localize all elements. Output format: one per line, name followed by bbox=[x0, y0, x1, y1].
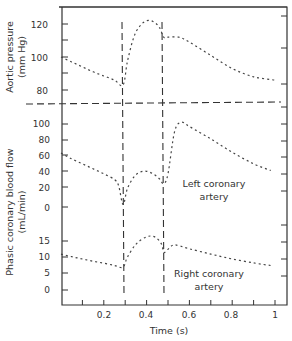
flow-y-title-line2: (mL/min) bbox=[16, 190, 27, 233]
right-tick-15: 15 bbox=[39, 236, 50, 246]
flow-y-title-line1: Phasic coronary blood flow bbox=[4, 148, 15, 275]
x-tick-0.8: 0.8 bbox=[224, 310, 239, 320]
right-tick-0: 0 bbox=[44, 285, 50, 295]
right-coronary-annotation-line1: Right coronary bbox=[174, 268, 244, 279]
x-tick-1: 1 bbox=[272, 310, 278, 320]
panel-divider bbox=[26, 102, 281, 104]
y-axis-ticks-right bbox=[281, 16, 287, 276]
left-coronary-annotation-line1: Left coronary bbox=[183, 178, 246, 189]
right-coronary-curve bbox=[61, 236, 271, 268]
aortic-tick-80: 80 bbox=[37, 86, 49, 96]
x-tick-0.4: 0.4 bbox=[139, 310, 154, 320]
right-tick-10: 10 bbox=[39, 252, 51, 262]
x-tick-0.2: 0.2 bbox=[97, 310, 111, 320]
right-coronary-annotation-line2: artery bbox=[195, 281, 224, 292]
aortic-tick-120: 120 bbox=[31, 20, 48, 30]
left-tick-20: 20 bbox=[39, 183, 51, 193]
left-tick-0: 0 bbox=[44, 203, 50, 213]
x-axis-ticks bbox=[82, 300, 275, 305]
x-tick-0.6: 0.6 bbox=[182, 310, 197, 320]
aortic-y-title-line2: (mm Hg) bbox=[16, 36, 27, 78]
y-axis-ticks-left bbox=[62, 24, 68, 290]
vertical-marker-systole-start bbox=[122, 22, 124, 296]
left-coronary-curve bbox=[61, 122, 271, 204]
left-coronary-annotation-line2: artery bbox=[200, 191, 229, 202]
x-axis-title: Time (s) bbox=[149, 325, 189, 336]
plot-frame bbox=[59, 7, 287, 305]
right-tick-5: 5 bbox=[44, 268, 50, 278]
chart-svg: 120 100 80 100 80 60 40 20 0 15 10 5 0 0… bbox=[0, 0, 292, 341]
left-tick-100: 100 bbox=[33, 119, 50, 129]
left-tick-40: 40 bbox=[39, 167, 51, 177]
aortic-pressure-curve bbox=[61, 20, 275, 85]
vertical-marker-systole-end bbox=[162, 22, 164, 296]
left-tick-60: 60 bbox=[39, 151, 51, 161]
left-tick-80: 80 bbox=[39, 135, 51, 145]
aortic-y-title-line1: Aortic pressure bbox=[4, 21, 15, 93]
aortic-tick-100: 100 bbox=[31, 53, 48, 63]
